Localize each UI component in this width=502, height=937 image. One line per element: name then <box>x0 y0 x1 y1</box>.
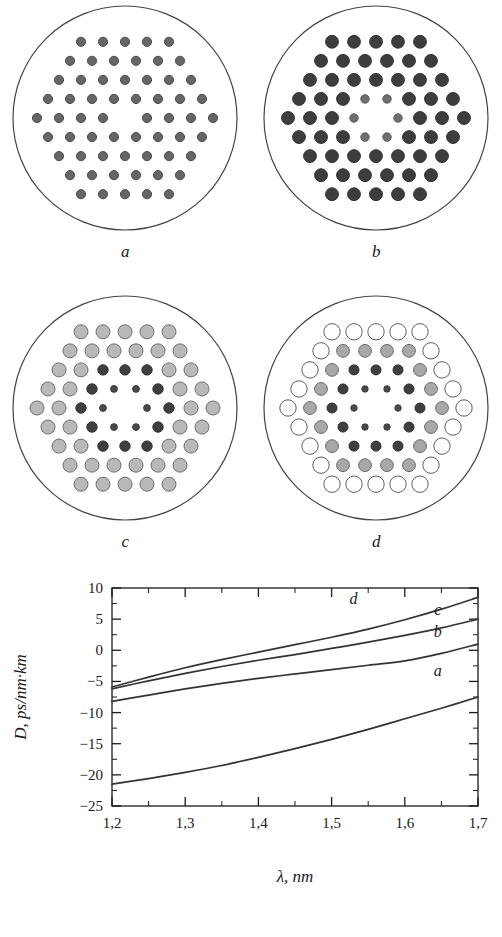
hole <box>153 56 162 65</box>
hole <box>403 131 416 144</box>
hole <box>87 94 96 103</box>
hole <box>133 424 140 431</box>
hole <box>151 458 165 472</box>
curve-label-c: c <box>434 601 441 618</box>
hole <box>315 383 328 396</box>
hole <box>32 113 41 122</box>
hole <box>164 190 173 199</box>
y-axis-label: D, ps/nm·km <box>11 654 30 740</box>
hole <box>370 73 383 86</box>
curve-label-a: a <box>434 662 442 679</box>
curve-c <box>112 619 478 689</box>
hole <box>87 132 96 141</box>
hole <box>109 171 118 180</box>
y-tick-label: −10 <box>80 705 103 721</box>
dispersion-chart: 1050−5−10−15−20−25 1,21,31,41,51,61,7 dc… <box>0 578 502 937</box>
hole <box>186 75 195 84</box>
hole <box>423 457 439 473</box>
hole <box>87 384 97 394</box>
x-tick-label: 1,3 <box>176 815 195 831</box>
hole <box>63 382 77 396</box>
hole <box>445 419 461 435</box>
hole <box>129 458 143 472</box>
y-tick-label: −15 <box>80 736 103 752</box>
hole <box>120 75 129 84</box>
hole <box>371 365 381 375</box>
hole <box>291 419 307 435</box>
hole <box>63 420 77 434</box>
hole <box>65 94 74 103</box>
hole <box>346 324 362 340</box>
hole <box>384 386 390 392</box>
hole <box>142 75 151 84</box>
hole <box>43 94 52 103</box>
hole <box>348 35 361 48</box>
cross-section-panel-group: a b c d <box>0 0 502 580</box>
hole <box>381 169 394 182</box>
y-tick-label: −5 <box>87 673 103 689</box>
hole <box>85 458 99 472</box>
hole <box>65 171 74 180</box>
hole <box>293 131 306 144</box>
hole <box>349 441 359 451</box>
hole <box>349 365 359 375</box>
y-tick-label: 5 <box>96 611 104 627</box>
hole <box>164 37 173 46</box>
hole <box>120 152 129 161</box>
hole <box>162 439 176 453</box>
hole <box>359 169 372 182</box>
hole <box>173 382 187 396</box>
hole <box>186 113 195 122</box>
hole <box>403 93 416 106</box>
curve-label-b: b <box>434 623 442 640</box>
hole <box>109 56 118 65</box>
x-tick-label: 1,6 <box>395 815 414 831</box>
hole <box>414 188 427 201</box>
hole <box>153 171 162 180</box>
hole <box>414 112 427 125</box>
hole <box>370 35 383 48</box>
hole <box>131 56 140 65</box>
hole <box>337 131 350 144</box>
hole <box>280 400 296 416</box>
hole <box>348 150 361 163</box>
hole <box>120 365 130 375</box>
hole <box>206 401 220 415</box>
hole <box>392 188 405 201</box>
hole <box>368 324 384 340</box>
hole <box>291 381 307 397</box>
hole <box>436 150 449 163</box>
hole <box>153 384 163 394</box>
hole <box>98 75 107 84</box>
hole <box>144 405 151 412</box>
hole <box>404 384 414 394</box>
hole <box>63 458 77 472</box>
hole <box>153 94 162 103</box>
hole <box>98 365 108 375</box>
hole <box>175 171 184 180</box>
hole <box>351 405 357 411</box>
hole <box>313 457 329 473</box>
hole <box>337 344 350 357</box>
dispersion-chart-svg: 1050−5−10−15−20−25 1,21,31,41,51,61,7 dc… <box>0 578 502 937</box>
hole <box>425 169 438 182</box>
hole <box>338 422 348 432</box>
panel-caption-c: c <box>0 532 251 552</box>
hole <box>304 150 317 163</box>
hole <box>153 132 162 141</box>
hole <box>371 441 381 451</box>
hole <box>425 54 438 67</box>
x-tick-label: 1,7 <box>469 815 488 831</box>
hole <box>52 363 66 377</box>
hole <box>381 344 394 357</box>
hole <box>87 171 96 180</box>
x-axis-label: λ, nm <box>276 867 314 886</box>
hole <box>76 403 86 413</box>
hole <box>423 343 439 359</box>
hole <box>54 152 63 161</box>
hole <box>395 405 401 411</box>
hole <box>87 422 97 432</box>
hole <box>403 344 416 357</box>
hole <box>414 440 427 453</box>
hole <box>383 95 391 103</box>
